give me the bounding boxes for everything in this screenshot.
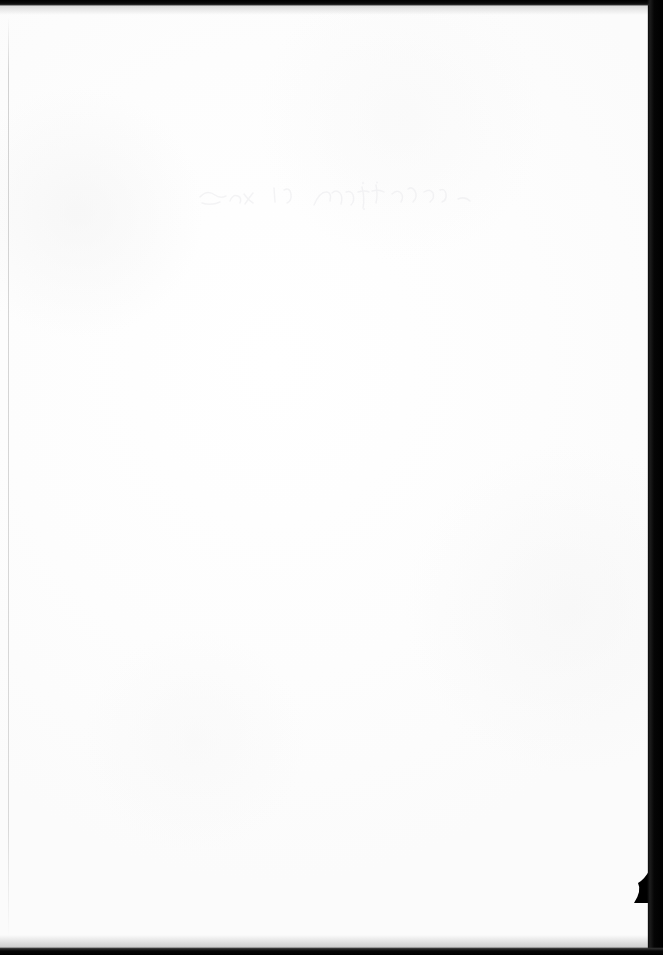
left-margin-rule xyxy=(8,17,9,937)
ghost-handwriting-strokes xyxy=(196,181,481,213)
scanned-page xyxy=(0,0,663,955)
scanner-edge-bottom xyxy=(0,947,663,955)
paper-sheet xyxy=(0,5,648,949)
scanner-edge-top xyxy=(0,0,663,6)
ghost-text-transcription xyxy=(196,179,486,213)
corner-tear xyxy=(616,869,650,903)
paper-grain-texture xyxy=(0,5,648,949)
scanner-edge-right xyxy=(647,0,663,955)
paper-top-edge-shadow xyxy=(0,5,648,15)
